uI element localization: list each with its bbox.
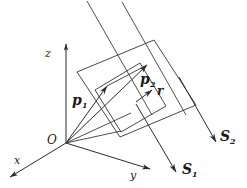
p1-label-subscript: 1 — [82, 100, 88, 110]
p1-label-base: p — [72, 92, 82, 108]
s2-label-subscript: 2 — [229, 136, 236, 146]
s2-label-base: S — [220, 128, 230, 144]
y-axis-label: y — [129, 169, 137, 182]
p2-label-subscript: 2 — [149, 79, 156, 89]
diagram-canvas: z x y O p 1 p 2 r S 1 S 2 — [0, 0, 247, 188]
p2-label: p 2 — [140, 71, 156, 89]
p1-label: p 1 — [72, 92, 88, 110]
s1-label-subscript: 1 — [192, 169, 198, 179]
s1-ray-group — [136, 104, 176, 172]
guide-line-group — [87, 1, 186, 115]
r-label: r — [157, 84, 165, 98]
s2-label: S 2 — [220, 128, 236, 146]
s1-label: S 1 — [182, 161, 198, 179]
construction-line-b — [66, 113, 131, 143]
origin-label: O — [47, 133, 57, 147]
guide-line-right — [122, 2, 186, 115]
x-axis-label: x — [14, 154, 21, 167]
s1-ray-arrow — [136, 104, 176, 172]
s1-label-base: S — [182, 161, 192, 177]
y-axis — [66, 143, 150, 169]
vector-diagram-figure: z x y O p 1 p 2 r S 1 S 2 — [0, 0, 247, 188]
z-axis-label: z — [44, 47, 51, 60]
construction-line-a — [66, 131, 121, 143]
p2-label-base: p — [140, 71, 150, 87]
